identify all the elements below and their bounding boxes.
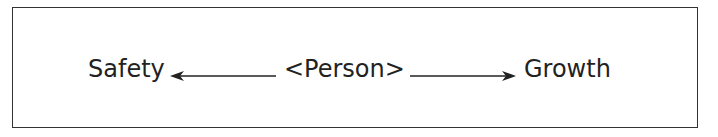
arrow-right-icon (410, 70, 516, 82)
label-person: <Person> (284, 54, 405, 84)
label-growth: Growth (524, 54, 611, 84)
label-safety: Safety (88, 54, 165, 84)
arrow-left-icon (170, 70, 276, 82)
